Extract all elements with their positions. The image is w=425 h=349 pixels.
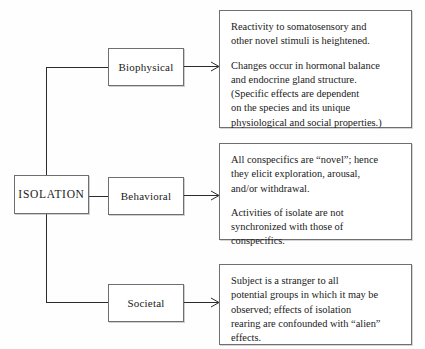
outcome-paragraph: Changes occur in hormonal balance and en… [231,59,401,130]
outcome-paragraph: All conspecifics are “novel”; hence they… [231,153,401,196]
node-biophysical: Biophysical [108,48,184,86]
node-societal: Societal [108,284,184,322]
connector-isolation-to-behavioral [89,196,109,197]
outcome-box-societal: Subject is a stranger to all potential g… [219,264,412,345]
isolation-effects-flowchart: ISOLATION Biophysical Behavioral Societa… [0,0,425,349]
node-isolation-label: ISOLATION [18,188,84,201]
connector-trunk-upper [46,67,47,176]
outcome-paragraph: Activities of isolate are not synchroniz… [231,206,401,249]
node-biophysical-label: Biophysical [119,61,174,73]
arrow-biophysical-to-outcome [184,62,220,71]
connector-isolation-to-biophysical [46,67,109,68]
outcome-paragraph: Reactivity to somatosensory and other no… [231,20,401,49]
outcome-paragraph: Subject is a stranger to all potential g… [231,274,401,345]
outcome-box-behavioral: All conspecifics are “novel”; hence they… [219,143,412,240]
outcome-box-biophysical: Reactivity to somatosensory and other no… [219,10,412,128]
arrow-behavioral-to-outcome [184,191,220,200]
connector-isolation-to-societal [46,302,109,303]
node-behavioral-label: Behavioral [121,190,171,202]
node-isolation: ISOLATION [14,175,89,214]
node-behavioral: Behavioral [108,177,184,215]
connector-trunk-lower [46,213,47,303]
arrow-societal-to-outcome [184,298,220,307]
node-societal-label: Societal [127,297,164,309]
